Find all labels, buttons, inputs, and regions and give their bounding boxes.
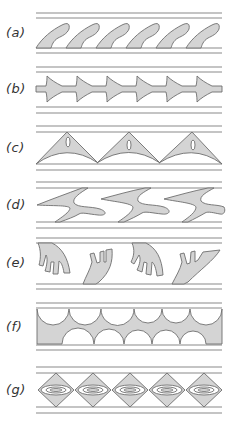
s-blades bbox=[37, 188, 225, 222]
forked-blades bbox=[38, 243, 220, 284]
panel-c bbox=[36, 126, 222, 170]
panel-label-e: (e) bbox=[6, 255, 26, 270]
panel-a bbox=[36, 13, 222, 53]
panel-label-c: (c) bbox=[6, 140, 25, 155]
panel-f bbox=[36, 303, 222, 350]
panel-d bbox=[36, 182, 225, 228]
tent-arches bbox=[36, 132, 222, 164]
scalloped-band bbox=[37, 309, 222, 344]
panel-e bbox=[36, 238, 222, 289]
panel-b bbox=[36, 67, 222, 113]
panel-label-g: (g) bbox=[6, 382, 26, 397]
panel-label-d: (d) bbox=[6, 197, 26, 212]
finned-bar bbox=[36, 76, 222, 102]
panel-label-b: (b) bbox=[6, 81, 26, 96]
panel-g bbox=[36, 367, 222, 413]
diagram-canvas bbox=[0, 0, 242, 421]
diamonds bbox=[38, 373, 222, 407]
panel-label-f: (f) bbox=[6, 319, 22, 334]
hook-blades bbox=[36, 24, 219, 48]
panel-label-a: (a) bbox=[6, 25, 26, 40]
